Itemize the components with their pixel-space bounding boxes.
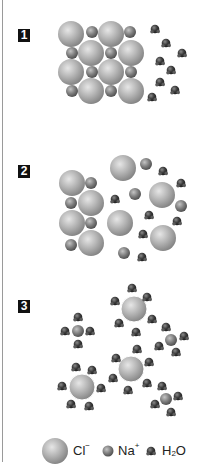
panel-1-lattice [58, 21, 187, 104]
panel-2-dissolving [59, 155, 187, 262]
water-legend-icon [146, 447, 156, 456]
diagram-frame: 1 2 3 [0, 0, 205, 471]
legend-chloride: Cl− [73, 443, 90, 458]
panel-3-hydrated [57, 284, 189, 417]
legend-sodium: Na+ [118, 443, 139, 458]
chloride-legend-icon [42, 438, 68, 464]
legend-water: H2O [162, 443, 186, 458]
molecule-illustration [0, 0, 205, 471]
sodium-legend-icon [103, 446, 114, 457]
